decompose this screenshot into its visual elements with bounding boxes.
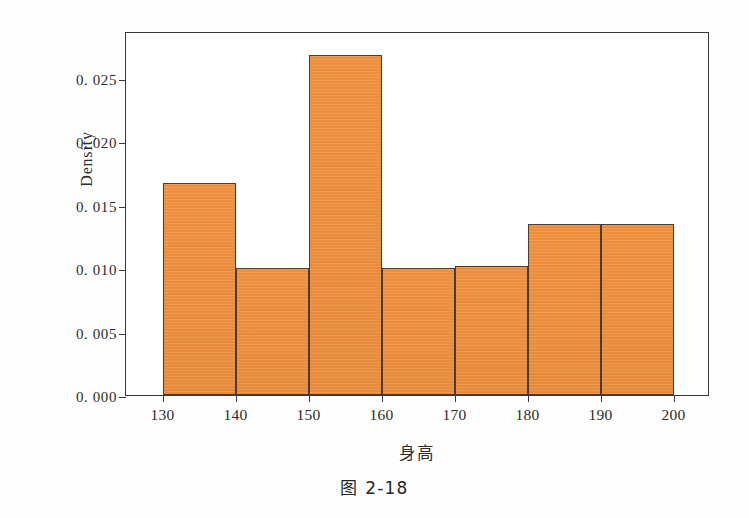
histogram-bar — [382, 268, 455, 395]
y-tick-mark — [119, 334, 126, 335]
x-tick-label: 140 — [223, 406, 247, 424]
x-tick-mark — [163, 395, 164, 402]
x-tick-label: 130 — [150, 406, 174, 424]
x-tick-mark — [528, 395, 529, 402]
x-tick-label: 160 — [369, 406, 393, 424]
histogram-bar — [601, 224, 674, 395]
y-tick-label: 0. 000 — [76, 389, 117, 406]
bars-layer — [126, 33, 708, 395]
x-tick-label: 200 — [661, 406, 685, 424]
x-tick-label: 190 — [588, 406, 612, 424]
histogram-figure: 0. 0000. 0050. 0100. 0150. 0200. 025 130… — [0, 0, 749, 518]
histogram-bar — [455, 266, 528, 395]
x-tick-label: 150 — [296, 406, 320, 424]
x-tick-mark — [309, 395, 310, 402]
histogram-bar — [163, 183, 236, 395]
x-tick-mark — [601, 395, 602, 402]
x-axis-title: 身高 — [125, 440, 709, 464]
x-tick-mark — [382, 395, 383, 402]
y-tick-mark — [119, 270, 126, 271]
y-axis-title: Density — [78, 94, 96, 224]
histogram-bar — [236, 268, 309, 395]
figure-caption: 图 2-18 — [0, 474, 749, 499]
x-tick-mark — [674, 395, 675, 402]
x-tick-label: 180 — [515, 406, 539, 424]
x-tick-label: 170 — [442, 406, 466, 424]
plot-frame: 0. 0000. 0050. 0100. 0150. 0200. 025 130… — [125, 32, 709, 396]
x-tick-mark — [236, 395, 237, 402]
y-tick-label: 0. 010 — [76, 262, 117, 279]
y-tick-label: 0. 005 — [76, 325, 117, 342]
x-tick-mark — [455, 395, 456, 402]
y-tick-label: 0. 025 — [76, 71, 117, 88]
y-tick-mark — [119, 80, 126, 81]
y-tick-mark — [119, 143, 126, 144]
y-tick-mark — [119, 207, 126, 208]
histogram-bar — [309, 55, 382, 395]
histogram-bar — [528, 224, 601, 395]
y-tick-mark — [119, 397, 126, 398]
